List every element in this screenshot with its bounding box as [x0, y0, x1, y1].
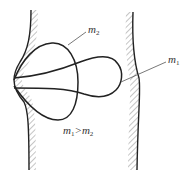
wall-flow-diagram: m2 m1 m1>m2: [0, 0, 188, 180]
relation-label: m1>m2: [63, 125, 93, 138]
leader-line-m2: [68, 32, 86, 45]
relation-operator: >: [74, 124, 81, 136]
relation-right-sub: 2: [90, 130, 94, 138]
relation-left-base: m: [63, 124, 71, 136]
label-m2: m2: [88, 24, 99, 37]
label-m1: m1: [168, 54, 179, 67]
label-m1-sub: 1: [176, 59, 180, 67]
label-m2-sub: 2: [96, 29, 100, 37]
label-m1-base: m: [168, 53, 176, 65]
lobe-m1: [14, 57, 122, 97]
label-m2-base: m: [88, 23, 96, 35]
relation-right-base: m: [82, 124, 90, 136]
